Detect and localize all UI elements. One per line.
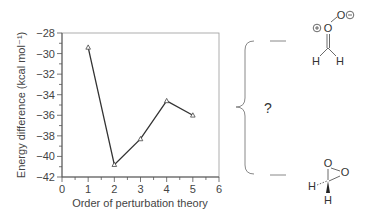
x-tick-label: 6 bbox=[216, 183, 222, 195]
x-axis-title: Order of perturbation theory bbox=[72, 197, 208, 209]
x-tick-label: 2 bbox=[111, 183, 117, 195]
data-point-marker bbox=[164, 98, 169, 102]
y-tick-label: −40 bbox=[36, 150, 55, 162]
y-tick-label: −42 bbox=[36, 171, 55, 183]
svg-text:H: H bbox=[308, 180, 316, 192]
series-line bbox=[88, 47, 193, 164]
x-tick-label: 5 bbox=[190, 183, 196, 195]
y-tick-label: −34 bbox=[36, 89, 55, 101]
plot-frame bbox=[62, 33, 219, 177]
x-tick-label: 0 bbox=[59, 183, 65, 195]
y-axis-title: Energy difference (kcal mol⁻¹) bbox=[15, 32, 27, 178]
y-axis: −28−30−32−34−36−38−40−42 bbox=[36, 27, 62, 183]
curly-brace bbox=[236, 41, 254, 174]
svg-text:H: H bbox=[336, 55, 344, 67]
svg-text:O: O bbox=[324, 22, 333, 34]
carbonyl-oxide-structure: O O H H bbox=[312, 9, 354, 67]
y-tick-label: −30 bbox=[36, 48, 55, 60]
x-axis: 0123456 bbox=[59, 177, 222, 195]
svg-text:H: H bbox=[312, 55, 320, 67]
y-tick-label: −36 bbox=[36, 109, 55, 121]
svg-text:O: O bbox=[341, 166, 350, 178]
x-tick-label: 3 bbox=[137, 183, 143, 195]
y-tick-label: −28 bbox=[36, 27, 55, 39]
svg-text:H: H bbox=[324, 194, 332, 206]
data-series bbox=[86, 45, 195, 167]
plot-border bbox=[62, 33, 219, 177]
x-tick-label: 1 bbox=[85, 183, 91, 195]
svg-text:O: O bbox=[337, 9, 346, 21]
question-mark: ? bbox=[264, 100, 272, 116]
chart: −28−30−32−34−36−38−40−42 0123456 Order o… bbox=[0, 0, 371, 222]
data-point-marker bbox=[86, 45, 91, 49]
dioxirane-structure: O O H H bbox=[308, 157, 350, 206]
y-tick-label: −32 bbox=[36, 68, 55, 80]
y-tick-label: −38 bbox=[36, 130, 55, 142]
x-tick-label: 4 bbox=[164, 183, 170, 195]
svg-text:O: O bbox=[324, 157, 333, 169]
